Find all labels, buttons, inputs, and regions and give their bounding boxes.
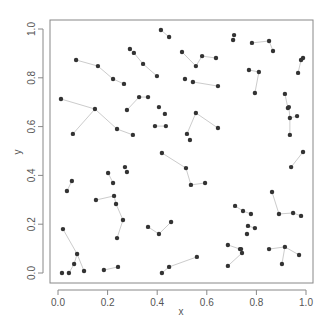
data-point — [185, 132, 189, 136]
data-point — [299, 214, 303, 218]
x-tick-label: 1.0 — [299, 297, 313, 308]
data-point — [111, 77, 115, 81]
data-point — [160, 151, 164, 155]
y-axis-label: y — [12, 150, 23, 155]
y-tick-label: 0.4 — [26, 168, 37, 182]
data-point — [146, 95, 150, 99]
x-tick-label: 0.6 — [200, 297, 214, 308]
data-point — [128, 47, 132, 51]
data-point — [167, 35, 171, 39]
data-point — [125, 108, 129, 112]
data-point — [194, 111, 198, 115]
y-tick-label: 0.2 — [26, 217, 37, 231]
data-point — [191, 80, 195, 84]
data-point — [160, 271, 164, 275]
data-point — [184, 166, 188, 170]
data-point — [115, 127, 119, 131]
data-point — [270, 190, 274, 194]
y-tick-label: 0.0 — [26, 266, 37, 280]
y-axis: 0.00.20.40.60.81.0 — [26, 22, 43, 280]
x-tick-label: 0.2 — [101, 297, 115, 308]
data-point — [250, 41, 254, 45]
y-tick-label: 0.6 — [26, 119, 37, 133]
data-point — [249, 212, 253, 216]
data-point — [297, 253, 301, 257]
data-point — [94, 198, 98, 202]
data-point — [59, 97, 63, 101]
data-point — [240, 251, 244, 255]
x-tick-label: 0.4 — [150, 297, 164, 308]
data-point — [102, 268, 106, 272]
data-point — [82, 269, 86, 273]
data-point — [111, 181, 115, 185]
data-point — [183, 77, 187, 81]
x-axis-label: x — [179, 306, 184, 317]
data-point — [200, 54, 204, 58]
data-point — [121, 218, 125, 222]
data-point — [74, 58, 78, 62]
data-point — [159, 28, 163, 32]
data-point — [96, 64, 100, 68]
data-point — [245, 232, 249, 236]
data-point — [299, 58, 303, 62]
data-point — [75, 252, 79, 256]
data-point — [122, 82, 126, 86]
data-point — [288, 133, 292, 137]
data-point — [247, 68, 251, 72]
data-point — [295, 114, 299, 118]
data-point — [301, 150, 305, 154]
data-point — [283, 245, 287, 249]
data-point — [232, 33, 236, 37]
data-point — [253, 226, 257, 230]
data-point — [291, 211, 295, 215]
scatter-chart: 0.00.20.40.60.81.0 0.00.20.40.60.81.0 x … — [0, 0, 329, 329]
data-point — [157, 105, 161, 109]
data-point — [180, 50, 184, 54]
data-point — [167, 265, 171, 269]
data-point — [231, 38, 235, 42]
data-point — [131, 133, 135, 137]
data-point — [226, 264, 230, 268]
data-point — [216, 84, 220, 88]
data-point — [60, 271, 64, 275]
data-point — [267, 39, 271, 43]
data-point — [267, 247, 271, 251]
data-point — [67, 271, 71, 275]
data-point — [164, 124, 168, 128]
data-point — [287, 105, 291, 109]
x-tick-label: 0.8 — [249, 297, 263, 308]
data-point — [115, 236, 119, 240]
data-point — [72, 262, 76, 266]
data-point — [289, 165, 293, 169]
data-point — [132, 51, 136, 55]
data-point — [137, 95, 141, 99]
data-point — [257, 70, 261, 74]
data-point — [253, 91, 257, 95]
x-tick-label: 0.0 — [51, 297, 65, 308]
data-point — [189, 183, 193, 187]
data-point — [112, 194, 116, 198]
data-point — [246, 224, 250, 228]
data-point — [271, 49, 275, 53]
data-point — [116, 265, 120, 269]
data-point — [203, 181, 207, 185]
data-point — [93, 107, 97, 111]
data-point — [277, 212, 281, 216]
data-point — [141, 62, 145, 66]
data-point — [71, 132, 75, 136]
data-point — [70, 179, 74, 183]
data-point — [169, 220, 173, 224]
data-point — [288, 116, 292, 120]
data-point — [226, 243, 230, 247]
data-point — [194, 64, 198, 68]
data-point — [106, 171, 110, 175]
data-point — [153, 124, 157, 128]
data-point — [125, 170, 129, 174]
data-point — [241, 209, 245, 213]
data-point — [146, 225, 150, 229]
data-point — [216, 126, 220, 130]
data-point — [233, 204, 237, 208]
y-tick-label: 1.0 — [26, 22, 37, 36]
data-point — [157, 232, 161, 236]
data-point — [283, 92, 287, 96]
